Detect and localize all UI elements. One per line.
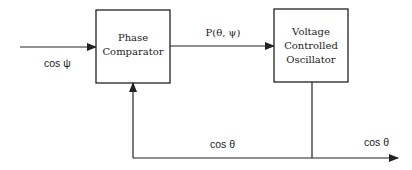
input-signal-label: cos ψ <box>44 57 71 69</box>
phase-comparator-label-line1: Phase <box>118 32 148 43</box>
phase-comparator-label-line2: Comparator <box>102 46 163 57</box>
vco-label-line3: Oscillator <box>286 54 336 65</box>
vco-label-line1: Voltage <box>291 26 330 37</box>
feedback-signal-label: cos θ <box>210 138 235 150</box>
comparator-output-label: P(θ, ψ) <box>206 27 241 38</box>
vco-label-line2: Controlled <box>284 40 338 51</box>
output-signal-label: cos θ <box>364 136 389 148</box>
pll-diagram: cos ψ Phase Comparator P(θ, ψ) Voltage C… <box>0 0 412 170</box>
